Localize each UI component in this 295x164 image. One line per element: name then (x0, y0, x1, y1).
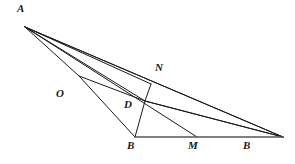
geometry-figure: A O N D B M B (0, 0, 295, 164)
vertex-label-A: A (17, 3, 24, 14)
diagram-lines (25, 27, 283, 137)
vertex-label-O: O (56, 88, 64, 99)
segment-A-D-B2 (25, 27, 283, 137)
vertex-label-B-right: B (243, 140, 250, 151)
segment-N-through-D-to-B1 (135, 84, 151, 137)
vertex-label-M: M (188, 140, 198, 151)
diagram-canvas (0, 0, 295, 164)
segment-O-through-D-to-B2 (79, 76, 283, 137)
vertex-label-B-left: B (127, 140, 134, 151)
segment-A-through-O-to-B1 (25, 27, 135, 137)
vertex-label-D: D (124, 99, 132, 110)
segment-A-to-M (25, 27, 197, 137)
vertex-label-N: N (155, 62, 163, 73)
segment-A-to-N (25, 27, 151, 84)
